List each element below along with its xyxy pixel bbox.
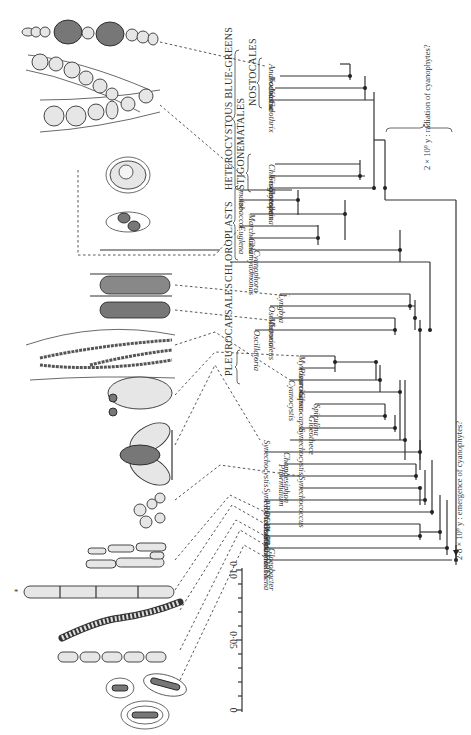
taxon-label: Synechocystis bbox=[262, 440, 272, 488]
taxon-label: Cyanocystis bbox=[287, 380, 297, 422]
taxon-label: Scytonema bbox=[267, 188, 277, 225]
group-label-stigonematales: STIGONEMATALES bbox=[235, 98, 246, 190]
illustrations: * bbox=[14, 20, 220, 729]
emergence-annotation: 2·8 × 10⁹ y : emergence of cyanophytes? bbox=[454, 421, 464, 560]
microcoleus-bundle-illustration bbox=[26, 329, 175, 380]
anabaena-filament-illustration bbox=[22, 20, 158, 46]
stigonematales-sheath-illustration bbox=[26, 54, 160, 132]
asterisk-mark: * bbox=[14, 587, 18, 597]
brace-pleurocapsales bbox=[235, 350, 240, 384]
synechocystis-cells-illustration bbox=[134, 493, 165, 528]
taxon-label: Calothrix bbox=[267, 100, 277, 133]
distance-scale-axis: 0·10 0·05 0 bbox=[228, 561, 242, 712]
pleurocapsa-colony-illustration bbox=[108, 377, 172, 416]
group-label-nostocales: NOSTOCALES bbox=[247, 38, 258, 106]
taxon-label: tobacco bbox=[237, 200, 247, 227]
radiation-brace bbox=[386, 124, 452, 132]
taxon-label: Phormidium bbox=[277, 463, 287, 507]
plectonema-wavy-illustration bbox=[62, 602, 180, 638]
group-label-pleurocapsales: PLEUROCAPSALES bbox=[223, 283, 234, 376]
pseudanabaena-filament-illustration bbox=[58, 652, 166, 662]
tick-label-0.10: 0·10 bbox=[228, 561, 238, 579]
cyanophora-cell-illustration bbox=[100, 157, 220, 250]
radiation-annotation: 2 × 10⁹ y : radiation of cyanophytes? bbox=[422, 44, 432, 170]
taxon-label: Gloeocapsa bbox=[297, 392, 307, 433]
tick-label-0: 0 bbox=[228, 708, 238, 713]
taxon-label: Oscillatoria bbox=[252, 330, 262, 371]
phylogenetic-figure: 0·10 0·05 0 bbox=[0, 0, 471, 735]
prochlorothrix-filament-illustration: * bbox=[14, 586, 174, 598]
oscillatoria-trichome-illustration bbox=[90, 274, 172, 318]
taxon-label: Gloeothece bbox=[307, 416, 317, 455]
taxon-label: Synechocystis bbox=[297, 428, 307, 476]
tick-label-0.05: 0·05 bbox=[228, 631, 238, 649]
taxon-label: Synechococcus bbox=[297, 476, 307, 528]
gloeobacter-cells-illustration bbox=[106, 670, 189, 729]
taxon-label: Euglena bbox=[237, 225, 247, 254]
group-label-chloroplasts: CHLOROPLASTS bbox=[223, 201, 234, 282]
taxon-label: Lyngbya bbox=[277, 293, 287, 323]
gloeocapsa-illustration bbox=[120, 417, 175, 492]
group-label-heterocystous: HETEROCYSTOUS BLUE-GREENS bbox=[223, 27, 234, 190]
brace-stigonematales bbox=[246, 154, 251, 192]
taxon-label: Cyanophora bbox=[252, 250, 262, 293]
synechococcus-rods-illustration bbox=[86, 543, 166, 568]
taxon-label: Gloeobacter bbox=[267, 548, 277, 591]
